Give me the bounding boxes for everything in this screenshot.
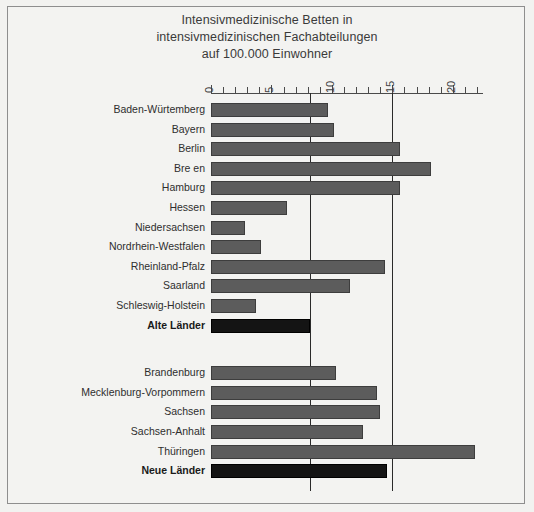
category-label: Saarland	[163, 278, 205, 293]
bar	[211, 464, 387, 478]
bar	[211, 103, 328, 117]
x-tick-minor	[284, 87, 285, 93]
bar	[211, 123, 334, 137]
plot-area: 05101520 Baden-WürtembergBayernBerlinBre…	[211, 93, 483, 491]
bar-row: Niedersachsen	[211, 221, 483, 235]
bar-row: Bayern	[211, 123, 483, 137]
category-label: Bayern	[172, 122, 205, 137]
x-tick-minor	[465, 87, 466, 93]
bar	[211, 201, 287, 215]
bar	[211, 142, 400, 156]
x-tick-label: 0	[203, 87, 215, 93]
bar	[211, 240, 261, 254]
x-tick-minor	[417, 87, 418, 93]
chart-title: Intensivmedizinische Betten in intensivm…	[0, 12, 534, 63]
category-label: Sachsen-Anhalt	[131, 424, 205, 439]
category-label: Schleswig-Holstein	[116, 298, 205, 313]
x-tick-minor	[404, 87, 405, 93]
x-tick-minor	[344, 87, 345, 93]
bar-row: Sachsen	[211, 405, 483, 419]
bar-row: Alte Länder	[211, 319, 483, 333]
bar-row: Mecklenburg-Vorpommern	[211, 386, 483, 400]
category-label: Niedersachsen	[135, 220, 205, 235]
chart-title-line-1: Intensivmedizinische Betten in	[0, 12, 534, 29]
x-tick-label: 15	[384, 81, 396, 93]
category-label: Hamburg	[162, 180, 205, 195]
bar	[211, 221, 245, 235]
bar	[211, 260, 385, 274]
category-label: Neue Länder	[141, 463, 205, 478]
x-tick-minor	[477, 87, 478, 93]
x-tick-minor	[320, 87, 321, 93]
bar-row: Berlin	[211, 142, 483, 156]
bar-row: Brandenburg	[211, 366, 483, 380]
bar-row: Neue Länder	[211, 464, 483, 478]
category-label: Nordrhein-Westfalen	[109, 239, 205, 254]
x-tick-minor	[259, 87, 260, 93]
x-tick-minor	[308, 87, 309, 93]
x-tick-label: 5	[263, 87, 275, 93]
category-label: Hessen	[169, 200, 205, 215]
category-label: Rheinland-Pfalz	[131, 259, 205, 274]
category-label: Thüringen	[158, 444, 205, 459]
category-label: Sachsen	[164, 404, 205, 419]
x-tick-minor	[296, 87, 297, 93]
chart-title-line-2: intensivmedizinischen Fachabteilungen	[0, 29, 534, 46]
bar-row: Baden-Würtemberg	[211, 103, 483, 117]
category-label: Alte Länder	[147, 318, 205, 333]
x-tick-minor	[247, 87, 248, 93]
bar-row: Saarland	[211, 279, 483, 293]
bar-row: Hamburg	[211, 181, 483, 195]
chart-title-line-3: auf 100.000 Einwohner	[0, 46, 534, 63]
category-label: Baden-Würtemberg	[113, 102, 205, 117]
x-tick-minor	[356, 87, 357, 93]
bar	[211, 181, 400, 195]
x-tick-minor	[235, 87, 236, 93]
bar	[211, 405, 380, 419]
chart-figure: Intensivmedizinische Betten in intensivm…	[0, 0, 534, 512]
bar	[211, 425, 363, 439]
bar	[211, 366, 336, 380]
bar-row: Sachsen-Anhalt	[211, 425, 483, 439]
bar	[211, 319, 310, 333]
x-tick-label: 20	[445, 81, 457, 93]
bar-row: Hessen	[211, 201, 483, 215]
x-tick-minor	[429, 87, 430, 93]
bar	[211, 386, 377, 400]
x-tick-minor	[223, 87, 224, 93]
x-tick-minor	[441, 87, 442, 93]
x-tick-minor	[380, 87, 381, 93]
bar-row: Rheinland-Pfalz	[211, 260, 483, 274]
bar	[211, 445, 475, 459]
bar	[211, 299, 256, 313]
bar-row: Nordrhein-Westfalen	[211, 240, 483, 254]
x-axis-line	[211, 93, 483, 94]
bar-row: Thüringen	[211, 445, 483, 459]
bar-row: Bre en	[211, 162, 483, 176]
category-label: Bre en	[174, 161, 205, 176]
x-tick-label: 10	[324, 81, 336, 93]
category-label: Brandenburg	[144, 365, 205, 380]
category-label: Berlin	[178, 141, 205, 156]
bar	[211, 162, 431, 176]
x-tick-minor	[368, 87, 369, 93]
category-label: Mecklenburg-Vorpommern	[81, 385, 205, 400]
bar	[211, 279, 350, 293]
bar-row: Schleswig-Holstein	[211, 299, 483, 313]
